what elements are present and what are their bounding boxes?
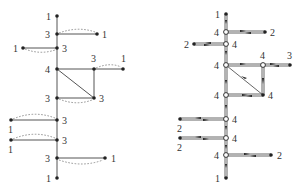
vertex-label: 3 [45,29,50,40]
arrow-right-icon [240,63,246,65]
graph-figure: 1 3 1 3 1 4 3 1 3 3 3 1 3 1 3 1 1 [0,0,298,196]
vertex-label: 4 [260,50,265,61]
open-vertex [224,30,229,35]
vertex-label: 4 [45,64,50,75]
dashed-arc [13,134,55,139]
edge [57,69,94,98]
vertex-label: 3 [62,135,67,146]
vertex-label: 1 [46,173,51,184]
vertex [55,14,59,18]
vertex [121,67,125,71]
vertex [224,176,228,180]
vertex [192,42,196,46]
vertex-label: 1 [102,29,107,40]
open-vertex [224,117,229,122]
vertex-label: 1 [46,11,51,22]
vertex-label: 2 [270,27,275,38]
vertex-label: 4 [214,150,219,161]
vertex-label: 3 [91,53,96,64]
vertex-label: 3 [62,43,67,54]
vertex [263,30,267,34]
open-vertex [261,63,266,68]
vertex [55,138,59,142]
vertex-label: 4 [214,60,219,71]
arrow-right-icon [270,63,276,65]
vertex-label: 2 [277,150,282,161]
vertex-label: 1 [121,53,126,64]
vertex-label: 2 [177,142,182,153]
dashed-arc [25,49,55,52]
vertex-label: 4 [232,39,237,50]
vertex-label: 1 [215,173,220,184]
left-graph: 1 3 1 3 1 4 3 1 3 3 3 1 3 1 3 1 1 [8,11,126,184]
vertex [9,118,13,122]
arrow-right-icon [204,44,210,46]
vertex-label: 4 [268,90,273,101]
vertex-label: 3 [45,93,50,104]
dashed-arc [96,65,121,68]
open-vertex [224,42,229,47]
vertex [261,93,265,97]
vertex-label: 1 [13,43,18,54]
vertex-label: 4 [214,27,219,38]
vertex [9,138,13,142]
arrow-left-icon [250,155,256,157]
vertex-label: 3 [99,93,104,104]
vertex-label: 1 [215,9,220,20]
right-labels: 1 4 2 4 2 4 4 3 4 4 4 2 4 2 4 2 1 [177,9,292,184]
vertex [55,96,59,100]
vertex [55,32,59,36]
left-nodes [9,14,125,180]
vertex [288,63,292,67]
arrow-left-icon [205,42,211,44]
arrow-left-icon [195,117,201,119]
vertex-label: 3 [62,115,67,126]
vertex [55,118,59,122]
vertex-label: 2 [177,123,182,134]
vertex [55,46,59,50]
vertex [178,136,182,140]
dashed-arc [59,29,95,33]
vertex [55,67,59,71]
arrow-left-icon [245,32,251,34]
vertex-label: 4 [214,90,219,101]
arrow-right-icon [240,30,246,32]
vertex [103,156,107,160]
vertex-label: 1 [8,124,13,135]
vertex [92,67,96,71]
vertex [55,176,59,180]
vertex [224,12,228,16]
vertex-label: 1 [111,153,116,164]
vertex [269,153,273,157]
vertex [178,117,182,121]
vertex-label: 3 [287,50,292,61]
vertex-label: 3 [45,153,50,164]
vertex [95,32,99,36]
vertex-label: 4 [232,133,237,144]
arrow-left-icon [195,136,201,138]
vertex [55,156,59,160]
arrow-left-icon [246,95,252,97]
vertex-label: 2 [184,39,189,50]
dashed-arc [13,114,55,119]
vertex [92,96,96,100]
arrow-right-icon [203,138,209,140]
right-graph: 1 4 2 4 2 4 4 3 4 4 4 2 4 2 4 2 1 [177,9,292,184]
dashed-arc [59,99,92,103]
arrow-right-icon [244,153,250,155]
open-vertex [224,63,229,68]
open-vertex [224,153,229,158]
dashed-arc [59,160,103,164]
vertex-label: 4 [232,114,237,125]
open-vertex [224,136,229,141]
vertex [21,46,25,50]
vertex-label: 1 [8,144,13,155]
open-vertex [224,93,229,98]
arrow-right-icon [203,119,209,121]
arrow-left-icon [273,65,279,67]
